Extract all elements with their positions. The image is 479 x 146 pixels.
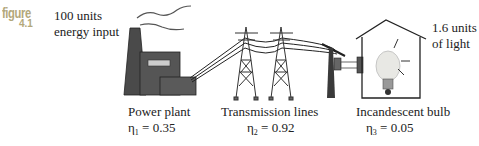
stage-power-plant: Power plant η1 = 0.35: [128, 104, 190, 136]
power-plant-icon: [124, 6, 196, 95]
stage-transmission: Transmission lines η2 = 0.92: [221, 104, 318, 136]
transmission-tower-icon: [269, 27, 293, 100]
stage-label: Power plant: [128, 104, 190, 120]
stage-label: Transmission lines: [221, 104, 318, 120]
efficiency-value: η2 = 0.92: [221, 120, 318, 136]
stage-bulb: Incandescent bulb η3 = 0.05: [356, 104, 450, 136]
stage-label: Incandescent bulb: [356, 104, 450, 120]
efficiency-value: η1 = 0.35: [128, 120, 190, 136]
lightbulb-icon: [376, 39, 410, 95]
efficiency-value: η3 = 0.05: [356, 120, 450, 136]
transmission-wires: [190, 38, 337, 82]
